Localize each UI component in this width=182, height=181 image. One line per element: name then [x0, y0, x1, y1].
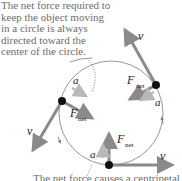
force-subscript: net	[125, 141, 134, 149]
acceleration-label: a	[90, 148, 96, 160]
callout-line-top	[70, 58, 92, 62]
object-dot	[152, 81, 160, 89]
circular-motion-diagram: v F net a v a F net F net a v	[0, 0, 182, 181]
velocity-label: v	[138, 29, 144, 43]
acceleration-arrow	[72, 88, 86, 96]
force-label: F	[69, 106, 78, 120]
acceleration-label: a	[155, 96, 161, 108]
object-left: v a F net	[27, 74, 92, 150]
force-label: F	[126, 73, 135, 87]
object-bottom: F net a v	[90, 132, 172, 169]
object-dot	[58, 97, 66, 105]
velocity-label: v	[27, 124, 33, 138]
velocity-label: v	[160, 149, 166, 163]
caption-bottom: The net force causes a centripetal	[33, 172, 180, 181]
force-label: F	[116, 132, 125, 146]
object-dot	[105, 161, 113, 169]
velocity-arrow	[33, 101, 62, 150]
force-subscript: net	[136, 82, 145, 90]
force-subscript: net	[78, 115, 87, 123]
acceleration-label: a	[73, 74, 79, 86]
callout-dotted-line	[88, 60, 95, 92]
object-top-right: v F net a	[125, 29, 161, 108]
